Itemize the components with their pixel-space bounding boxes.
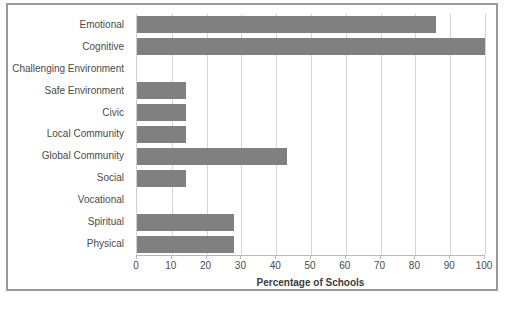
bar — [137, 170, 186, 187]
y-axis-label: Social — [8, 167, 130, 189]
bar — [137, 82, 186, 99]
y-axis-label: Physical — [8, 233, 130, 255]
bar — [137, 16, 436, 33]
y-axis-label: Challenging Environment — [8, 58, 130, 80]
x-axis-tick-label: 60 — [339, 260, 350, 271]
y-axis-label: Local Community — [8, 124, 130, 146]
bar — [137, 214, 234, 231]
bar-chart: EmotionalCognitiveChallenging Environmen… — [8, 5, 496, 289]
x-axis-tick-label: 30 — [235, 260, 246, 271]
gridline — [485, 14, 486, 255]
x-axis-tick-label: 20 — [200, 260, 211, 271]
bar-row — [137, 233, 485, 255]
bar — [137, 38, 485, 55]
y-axis-label: Emotional — [8, 14, 130, 36]
x-axis-tick — [171, 255, 172, 259]
bar-row — [137, 36, 485, 58]
bar — [137, 148, 287, 165]
x-axis-tick — [380, 255, 381, 259]
x-axis-tick — [310, 255, 311, 259]
y-axis-label: Safe Environment — [8, 80, 130, 102]
x-axis-tick — [206, 255, 207, 259]
bar-row — [137, 80, 485, 102]
y-axis-category-labels: EmotionalCognitiveChallenging Environmen… — [8, 14, 130, 255]
bar-row — [137, 189, 485, 211]
y-axis-label: Global Community — [8, 145, 130, 167]
y-axis-label: Civic — [8, 102, 130, 124]
x-axis-tick — [484, 255, 485, 259]
x-axis-tick-label: 0 — [133, 260, 139, 271]
bar-row — [137, 167, 485, 189]
x-axis-tick — [449, 255, 450, 259]
bar-row — [137, 58, 485, 80]
x-axis-tick-labels: 0102030405060708090100 — [8, 260, 496, 274]
plot-area — [136, 14, 485, 255]
x-axis-tick-label: 70 — [374, 260, 385, 271]
x-axis-tick — [136, 255, 137, 259]
x-axis-tick-label: 100 — [476, 260, 493, 271]
y-axis-label: Spiritual — [8, 211, 130, 233]
bar — [137, 126, 186, 143]
bar-row — [137, 124, 485, 146]
bar-series — [137, 14, 485, 255]
x-axis-tick — [345, 255, 346, 259]
x-axis-tick-label: 90 — [444, 260, 455, 271]
x-axis-tick-label: 10 — [165, 260, 176, 271]
y-axis-label: Vocational — [8, 189, 130, 211]
y-axis-label: Cognitive — [8, 36, 130, 58]
bar — [137, 236, 234, 253]
bar-row — [137, 14, 485, 36]
x-axis-tick — [414, 255, 415, 259]
x-axis-tick-label: 50 — [304, 260, 315, 271]
x-axis-title: Percentage of Schools — [136, 277, 485, 288]
x-axis-tick — [275, 255, 276, 259]
x-axis-tick-label: 80 — [409, 260, 420, 271]
bar — [137, 104, 186, 121]
x-axis-tick-label: 40 — [270, 260, 281, 271]
bar-row — [137, 211, 485, 233]
chart-figure-frame: EmotionalCognitiveChallenging Environmen… — [6, 3, 498, 291]
x-axis-tick — [240, 255, 241, 259]
bar-row — [137, 102, 485, 124]
bar-row — [137, 145, 485, 167]
